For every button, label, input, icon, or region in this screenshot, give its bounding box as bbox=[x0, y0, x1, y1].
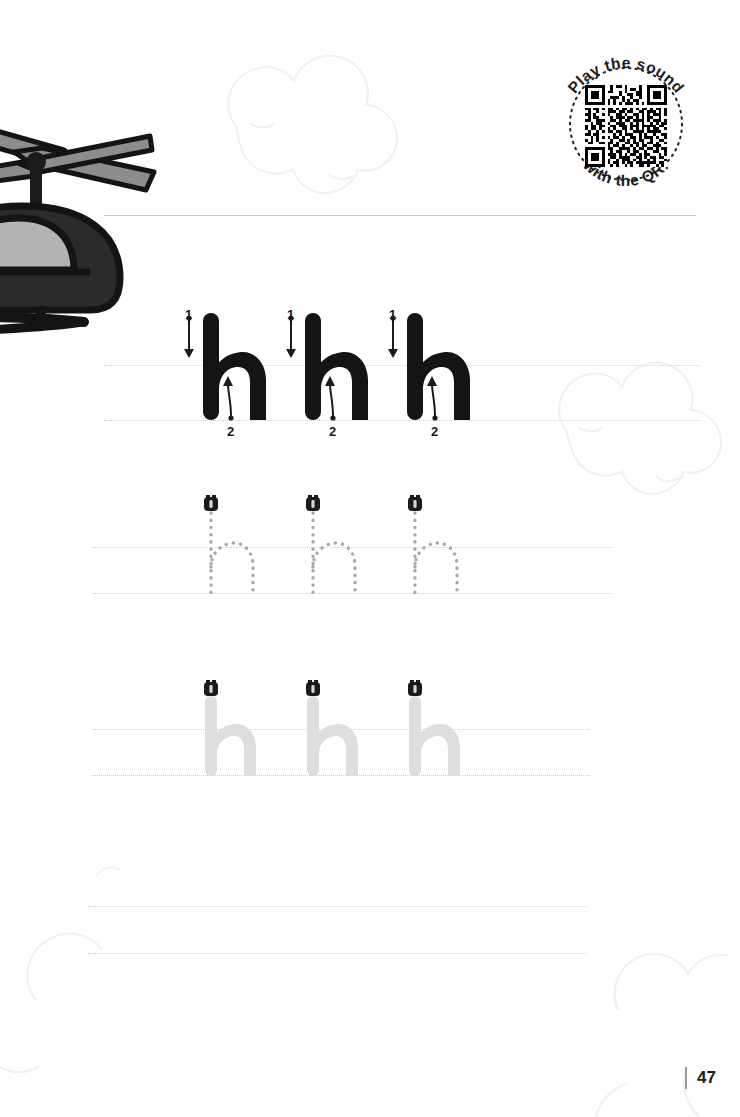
letter-h-ghost-3 bbox=[409, 696, 460, 776]
pencil-start-icon bbox=[408, 680, 422, 696]
letter-h-solid-3 bbox=[407, 313, 470, 420]
letter-h-ghost-1 bbox=[205, 696, 256, 776]
worksheet-theme-word: helicopter bbox=[0, 0, 1, 1]
letter-h-dotted-2 bbox=[313, 513, 355, 595]
page-number-tick bbox=[685, 1067, 687, 1089]
stroke-number-1-b: 1 bbox=[287, 308, 294, 321]
letter-group-solid bbox=[0, 290, 740, 440]
stroke-arrow-2-c bbox=[427, 376, 438, 421]
pencil-start-icon bbox=[306, 495, 320, 511]
start-markers-dotted bbox=[204, 495, 422, 511]
letter-h-solid-1 bbox=[203, 313, 266, 420]
page-number-value: 47 bbox=[697, 1068, 716, 1088]
worksheet-letter-value: h bbox=[0, 0, 1, 1]
letter-h-ghost-2 bbox=[307, 696, 358, 776]
stroke-number-1-a: 1 bbox=[185, 308, 192, 321]
letter-h-dotted-3 bbox=[415, 513, 457, 595]
worksheet-page: Play the sound with the QR! bbox=[0, 0, 740, 1117]
stroke-number-1-c: 1 bbox=[389, 308, 396, 321]
stroke-number-2-b: 2 bbox=[329, 425, 336, 438]
guide-line-midline bbox=[88, 906, 586, 907]
qr-code-icon[interactable] bbox=[585, 85, 667, 167]
stroke-arrow-2-b bbox=[325, 376, 336, 421]
page-number: 47 bbox=[685, 1067, 716, 1089]
stroke-number-2-c: 2 bbox=[431, 425, 438, 438]
pencil-start-icon bbox=[408, 495, 422, 511]
start-markers-ghost bbox=[204, 680, 422, 696]
header-divider bbox=[104, 215, 696, 216]
letter-h-solid-2 bbox=[305, 313, 368, 420]
stroke-arrow-2-a bbox=[223, 376, 234, 421]
letter-group-dotted[interactable] bbox=[0, 495, 740, 605]
letter-group-ghost[interactable] bbox=[0, 680, 740, 790]
pencil-start-icon bbox=[204, 495, 218, 511]
stroke-number-2-a: 2 bbox=[227, 425, 234, 438]
pencil-start-icon bbox=[204, 680, 218, 696]
letter-h-dotted-1 bbox=[211, 513, 253, 595]
guide-line-baseline bbox=[88, 953, 586, 954]
pencil-start-icon bbox=[306, 680, 320, 696]
